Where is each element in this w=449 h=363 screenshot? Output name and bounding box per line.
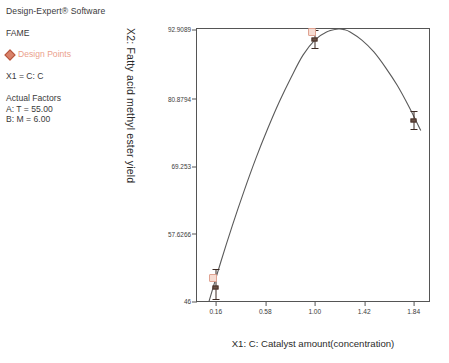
y-axis-tick-label: 57.6266 <box>168 230 197 237</box>
error-bar-cap <box>410 129 417 130</box>
chart-legend-panel: Design-Expert® Software FAME Design Poin… <box>6 6 134 128</box>
y-axis-tick-mark <box>192 29 197 30</box>
y-axis-tick-mark <box>192 234 197 235</box>
x-axis-tick-label: 1.42 <box>358 301 371 315</box>
x-axis-title: X1: C: Catalyst amount(concentration) <box>196 338 430 349</box>
y-axis-tick-label: 46 <box>184 298 197 305</box>
x1-assignment-block: X1 = C: C <box>6 71 134 82</box>
design-point-glyph <box>312 37 318 41</box>
response-name-block: FAME <box>6 28 134 39</box>
model-curve <box>197 29 429 301</box>
y-axis-title: X2: Fatty acid methyl ester yield <box>121 28 137 298</box>
x-axis-tick-label: 1.00 <box>308 301 321 315</box>
y-axis-tick-mark <box>192 99 197 100</box>
x-axis-tick-mark <box>265 301 266 306</box>
design-point-marker[interactable] <box>311 36 318 43</box>
y-axis-tick-label: 69.253 <box>171 163 197 170</box>
design-points-legend-entry: Design Points <box>6 49 134 60</box>
actual-factor-a: A: T = 55.00 <box>6 104 134 115</box>
x1-assignment: X1 = C: C <box>6 71 134 82</box>
design-point-marker-icon <box>4 49 15 60</box>
error-bar-cap <box>212 299 219 300</box>
y-axis-tick-mark <box>192 301 197 302</box>
error-bar-cap <box>212 269 219 270</box>
x-axis-tick-mark <box>216 301 217 306</box>
highlighted-design-point-marker[interactable] <box>308 28 316 36</box>
software-title: Design-Expert® Software <box>6 6 134 17</box>
x-axis-tick-label: 0.58 <box>259 301 272 315</box>
actual-factors-header: Actual Factors <box>6 93 134 104</box>
plot-frame: 4657.626669.25380.879492.9089 0.160.581.… <box>196 28 430 302</box>
y-axis-tick-label: 80.8794 <box>168 95 197 102</box>
actual-factor-b: B: M = 6.00 <box>6 114 134 125</box>
design-point-glyph <box>213 286 219 290</box>
x-axis-tick-mark <box>414 301 415 306</box>
design-points-label: Design Points <box>18 49 71 60</box>
x-axis-tick-mark <box>315 301 316 306</box>
y-axis-tick-mark <box>192 166 197 167</box>
plot-area: 4657.626669.25380.879492.9089 0.160.581.… <box>197 29 429 301</box>
design-point-glyph <box>411 118 417 122</box>
x-axis-tick-mark <box>364 301 365 306</box>
response-name: FAME <box>6 28 134 39</box>
design-point-marker[interactable] <box>410 117 417 124</box>
error-bar-cap <box>410 111 417 112</box>
software-title-block: Design-Expert® Software <box>6 6 134 17</box>
y-axis-tick-label: 92.9089 <box>168 26 197 33</box>
error-bar-cap <box>311 48 318 49</box>
x-axis-tick-label: 0.16 <box>209 301 222 315</box>
design-point-marker[interactable] <box>212 284 219 291</box>
actual-factors-block: Actual Factors A: T = 55.00 B: M = 6.00 <box>6 93 134 125</box>
highlighted-design-point-marker[interactable] <box>209 274 217 282</box>
x-axis-tick-label: 1.84 <box>407 301 420 315</box>
